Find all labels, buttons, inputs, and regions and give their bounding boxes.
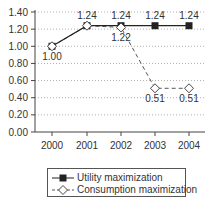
marker-utility	[152, 22, 159, 29]
legend-label-utility: Utility maximization	[77, 172, 163, 183]
y-tick-label: 1.20	[9, 24, 29, 35]
x-tick-label: 2002	[110, 140, 133, 151]
data-label: 0.51	[145, 93, 165, 104]
x-tick-label: 2001	[76, 140, 99, 151]
data-label: 1.24	[77, 10, 97, 21]
y-tick-label: 0.40	[9, 92, 29, 103]
y-tick-label: 0.80	[9, 58, 29, 69]
data-label: 0.51	[179, 93, 199, 104]
y-tick-label: 0.20	[9, 109, 29, 120]
data-label: 1.24	[179, 10, 199, 21]
open-diamond-marker-icon	[52, 185, 74, 195]
marker-consumption	[185, 84, 194, 93]
data-label: 1.24	[111, 10, 131, 21]
data-label: 1.22	[111, 32, 131, 43]
marker-utility	[186, 22, 193, 29]
data-label: 1.24	[145, 10, 165, 21]
line-chart: 0.000.200.400.600.801.001.201.4020002001…	[0, 0, 211, 165]
chart-legend: Utility maximization Consumption maximiz…	[47, 168, 186, 197]
x-tick-label: 2000	[41, 140, 64, 151]
y-tick-label: 0.00	[9, 127, 29, 138]
y-tick-label: 0.60	[9, 75, 29, 86]
marker-consumption	[151, 84, 160, 93]
filled-square-marker-icon	[52, 173, 74, 183]
y-tick-label: 1.00	[9, 41, 29, 52]
legend-label-consumption: Consumption maximization	[77, 184, 197, 195]
legend-item-consumption: Consumption maximization	[52, 183, 197, 196]
y-tick-label: 1.40	[9, 7, 29, 18]
x-tick-label: 2004	[178, 140, 201, 151]
data-label: 1.00	[42, 51, 62, 62]
x-tick-label: 2003	[144, 140, 167, 151]
